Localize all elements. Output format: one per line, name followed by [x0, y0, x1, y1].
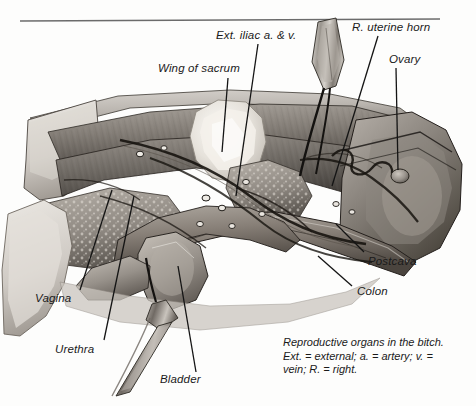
label-urethra: Urethra — [55, 343, 94, 355]
label-r-uterine-horn: R. uterine horn — [352, 21, 430, 33]
label-ovary: Ovary — [389, 53, 420, 65]
caption-line-3: vein; R. = right. — [283, 363, 468, 377]
ovary-structure — [391, 169, 409, 183]
label-bladder: Bladder — [160, 373, 201, 385]
figure-caption: Reproductive organs in the bitch. Ext. =… — [283, 336, 468, 377]
label-colon: Colon — [357, 285, 388, 297]
label-postcava: Postcava — [368, 255, 417, 267]
label-vagina: Vagina — [35, 292, 71, 304]
label-ext-iliac: Ext. iliac a. & v. — [216, 29, 296, 41]
caption-line-1: Reproductive organs in the bitch. — [283, 336, 468, 350]
label-wing-of-sacrum: Wing of sacrum — [158, 62, 240, 74]
caption-line-2: Ext. = external; a. = artery; v. = — [283, 350, 468, 364]
anatomical-figure: Ext. iliac a. & v. R. uterine horn Wing … — [0, 0, 476, 406]
